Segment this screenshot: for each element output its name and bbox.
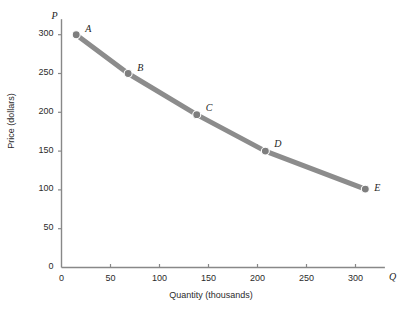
point-label-c: C (206, 102, 213, 113)
data-point-a (72, 31, 80, 39)
plot-area (0, 0, 406, 316)
y-tick-label-300: 300 (24, 28, 54, 38)
demand-curve-path (76, 35, 365, 189)
x-tick-label-50: 50 (96, 273, 126, 283)
data-point-markers (72, 31, 369, 193)
x-tick-label-250: 250 (292, 273, 322, 283)
x-axis-symbol-label: Q (389, 271, 396, 282)
y-axis-title: Price (dollars) (6, 66, 16, 176)
x-tick-label-150: 150 (194, 273, 224, 283)
y-tick-label-0: 0 (24, 261, 54, 271)
y-tick-label-50: 50 (24, 222, 54, 232)
data-point-c (193, 111, 201, 119)
demand-curve-line (76, 35, 365, 189)
x-tick-label-0: 0 (47, 273, 77, 283)
axes (62, 19, 385, 267)
x-axis-title: Quantity (thousands) (61, 290, 361, 300)
data-point-b (124, 70, 132, 78)
y-tick-label-100: 100 (24, 183, 54, 193)
x-tick-label-200: 200 (243, 273, 273, 283)
data-point-d (261, 147, 269, 155)
point-label-e: E (374, 182, 380, 193)
demand-curve-chart: Price (dollars) Quantity (thousands) P Q… (0, 0, 406, 316)
point-label-b: B (137, 62, 143, 73)
tick-marks (58, 35, 356, 268)
x-tick-label-300: 300 (341, 273, 371, 283)
y-tick-label-250: 250 (24, 67, 54, 77)
data-point-e (361, 185, 369, 193)
y-axis-symbol-label: P (52, 10, 58, 21)
y-tick-label-150: 150 (24, 145, 54, 155)
point-label-d: D (274, 138, 281, 149)
x-tick-label-100: 100 (145, 273, 175, 283)
point-label-a: A (85, 23, 91, 34)
y-tick-label-200: 200 (24, 106, 54, 116)
